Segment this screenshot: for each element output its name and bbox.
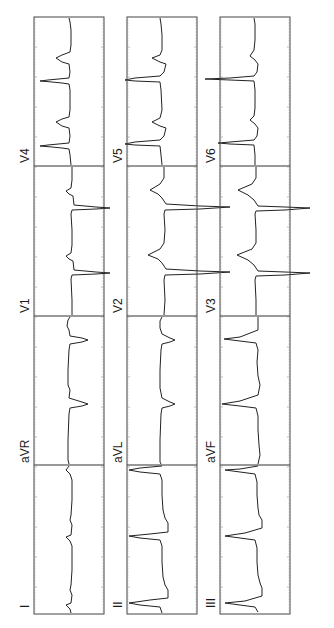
trace-ii bbox=[129, 466, 168, 613]
lead-label-i: I bbox=[18, 605, 32, 608]
strip-col1 bbox=[34, 17, 110, 614]
lead-label-v2: V2 bbox=[111, 298, 125, 313]
trace-v6 bbox=[205, 18, 258, 165]
lead-labels: I aVR V1 V4 II aVL V2 V5 III aVF V3 V6 bbox=[18, 148, 218, 608]
strip-col2 bbox=[125, 17, 230, 614]
trace-v3 bbox=[237, 167, 310, 315]
lead-label-avr: aVR bbox=[18, 439, 32, 463]
trace-avl bbox=[160, 317, 175, 464]
lead-label-avf: aVF bbox=[204, 441, 218, 463]
strip-col3 bbox=[205, 17, 310, 614]
lead-label-ii: II bbox=[111, 601, 125, 608]
lead-label-v6: V6 bbox=[204, 148, 218, 163]
lead-label-v1: V1 bbox=[18, 298, 32, 313]
lead-label-v4: V4 bbox=[18, 148, 32, 163]
ecg-figure: I aVR V1 V4 II aVL V2 V5 III aVF V3 V6 bbox=[0, 0, 334, 628]
trace-i bbox=[66, 466, 72, 613]
trace-v2 bbox=[148, 167, 230, 315]
trace-avf bbox=[222, 317, 260, 464]
trace-avr bbox=[67, 317, 88, 464]
lead-label-v5: V5 bbox=[111, 148, 125, 163]
lead-label-avl: aVL bbox=[111, 441, 125, 463]
lead-label-v3: V3 bbox=[204, 298, 218, 313]
trace-v4 bbox=[40, 18, 71, 165]
trace-v5 bbox=[125, 18, 166, 165]
trace-iii bbox=[225, 466, 262, 612]
lead-label-iii: III bbox=[204, 598, 218, 608]
